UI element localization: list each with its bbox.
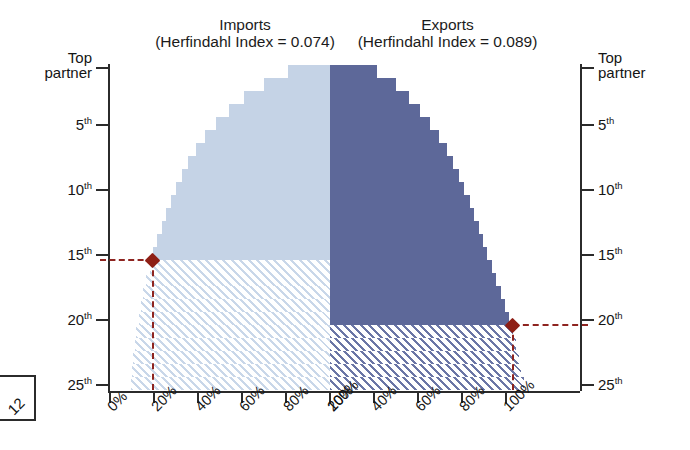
step-bar — [188, 156, 330, 169]
step-bar — [330, 78, 396, 91]
step-bar — [157, 234, 330, 247]
marker-leader-vertical — [512, 325, 514, 390]
step-bar — [330, 286, 501, 299]
step-bar — [330, 169, 459, 182]
step-bar — [264, 78, 330, 91]
step-bar — [171, 195, 331, 208]
axis-tick — [96, 319, 108, 321]
axis-tick — [96, 384, 108, 386]
step-bar — [146, 273, 330, 286]
step-bar — [330, 364, 521, 377]
step-bar — [330, 351, 519, 364]
step-bar — [196, 143, 330, 156]
step-bar — [330, 65, 377, 78]
y-axis-label: 25th — [67, 375, 92, 393]
left-axis-spine — [108, 64, 110, 391]
step-bar — [143, 286, 330, 299]
y-axis-label: 5th — [598, 115, 614, 133]
step-bar — [330, 195, 470, 208]
axis-tick — [582, 67, 594, 69]
axis-tick — [582, 319, 594, 321]
y-axis-label: 15th — [67, 245, 92, 263]
step-bar — [141, 299, 330, 312]
step-bar — [330, 247, 487, 260]
axis-tick — [96, 189, 108, 191]
axis-tick — [582, 124, 594, 126]
cut-off-header-text — [0, 0, 690, 4]
step-bar — [330, 325, 513, 338]
step-bar — [330, 182, 464, 195]
imports-panel-title: Imports (Herfindahl Index = 0.074) — [140, 17, 350, 50]
marker-leader-vertical — [152, 260, 154, 390]
step-bar — [133, 351, 330, 364]
plot-area — [110, 65, 550, 390]
chart-figure: Imports (Herfindahl Index = 0.074) Expor… — [0, 0, 690, 450]
step-bar — [330, 338, 516, 351]
step-bar — [136, 325, 330, 338]
step-bar — [330, 91, 409, 104]
step-bar — [330, 117, 430, 130]
step-bar — [216, 117, 330, 130]
step-bar — [139, 312, 330, 325]
step-bar — [135, 338, 330, 351]
step-bar — [330, 260, 492, 273]
step-bar — [132, 364, 330, 377]
step-bar — [150, 260, 330, 273]
imports-herfindahl-label: (Herfindahl Index = 0.074) — [140, 34, 350, 51]
imports-series-area — [110, 65, 330, 390]
step-bar — [166, 208, 330, 221]
step-bar — [330, 104, 420, 117]
marker-leader-horizontal — [513, 324, 588, 326]
step-bar — [162, 221, 330, 234]
y-axis-label: Toppartner — [44, 50, 92, 81]
axis-tick — [96, 254, 108, 256]
right-axis-spine — [580, 64, 582, 391]
step-bar — [330, 273, 496, 286]
step-bar — [330, 234, 483, 247]
axis-tick — [582, 189, 594, 191]
step-bar — [330, 299, 505, 312]
step-bar — [153, 247, 330, 260]
y-axis-label: 10th — [67, 180, 92, 198]
step-bar — [330, 130, 439, 143]
y-axis-label: 20th — [67, 310, 92, 328]
step-bar — [176, 182, 330, 195]
imports-title-label: Imports — [140, 17, 350, 34]
exports-herfindahl-label: (Herfindahl Index = 0.089) — [340, 34, 555, 51]
exports-series-area — [330, 65, 550, 390]
step-bar — [330, 221, 479, 234]
step-bar — [205, 130, 330, 143]
exports-title-label: Exports — [340, 17, 555, 34]
step-bar — [330, 208, 474, 221]
y-axis-label: Toppartner — [598, 50, 646, 81]
step-bar — [182, 169, 331, 182]
step-bar — [330, 143, 447, 156]
y-axis-label: 5th — [76, 115, 92, 133]
step-bar — [229, 104, 330, 117]
y-axis-label: 25th — [598, 375, 623, 393]
y-axis-label: 20th — [598, 310, 623, 328]
step-bar — [330, 156, 453, 169]
step-bar — [288, 65, 330, 78]
y-axis-label: 15th — [598, 245, 623, 263]
y-axis-label: 10th — [598, 180, 623, 198]
axis-tick — [582, 254, 594, 256]
step-bar — [244, 91, 330, 104]
axis-tick — [582, 384, 594, 386]
axis-tick — [96, 124, 108, 126]
step-bar — [330, 312, 509, 325]
exports-panel-title: Exports (Herfindahl Index = 0.089) — [340, 17, 555, 50]
axis-tick — [96, 67, 108, 69]
